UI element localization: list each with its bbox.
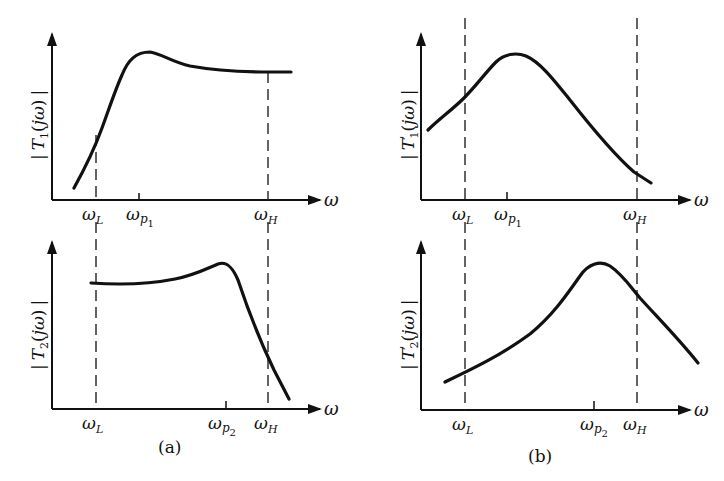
- wL-label: ωL: [82, 204, 103, 227]
- panel-a-top: |T1(jω)| ωL ωp1 ωH ω: [28, 34, 339, 229]
- response-curve-T1: [74, 52, 291, 188]
- wH-label: ωH: [254, 413, 278, 436]
- frequency-response-figure: |T1(jω)| ωL ωp1 ωH ω |T2(jω)| ωL ωp2 ωH …: [0, 0, 724, 481]
- panel-b-top: |T'1(jω)| ωL ωp1 ωH ω: [398, 18, 709, 229]
- caption-a: (a): [158, 437, 181, 457]
- wH-label: ωH: [623, 204, 647, 227]
- y-axis-label: |T'1(jω)|: [398, 89, 421, 160]
- wp1-label: ωp1: [494, 204, 522, 229]
- wH-label: ωH: [254, 204, 278, 227]
- y-axis-label: |T'2(jω)|: [398, 299, 421, 370]
- y-axis-label: |T1(jω)|: [28, 90, 51, 160]
- omega-axis-label: ω: [324, 189, 339, 210]
- wp2-label: ωp2: [208, 413, 236, 438]
- omega-axis-label: ω: [694, 399, 709, 420]
- omega-axis-label: ω: [694, 189, 709, 210]
- panel-b-bottom: |T'2(jω)| ωL ωp2 ωH ω (b): [398, 222, 709, 466]
- response-curve-T2: [91, 263, 289, 399]
- panel-a-bottom: |T2(jω)| ωL ωp2 ωH ω (a): [28, 222, 339, 457]
- wL-label: ωL: [452, 204, 473, 227]
- wp2-label: ωp2: [580, 414, 608, 439]
- omega-axis-label: ω: [324, 398, 339, 419]
- response-curve-T1-prime: [428, 54, 651, 183]
- y-axis-label: |T2(jω)|: [28, 300, 51, 370]
- wL-label: ωL: [82, 413, 103, 436]
- caption-b: (b): [528, 446, 552, 466]
- wH-label: ωH: [623, 414, 647, 437]
- response-curve-T2-prime: [445, 263, 698, 382]
- wp1-label: ωp1: [126, 204, 154, 229]
- wL-label: ωL: [452, 414, 473, 437]
